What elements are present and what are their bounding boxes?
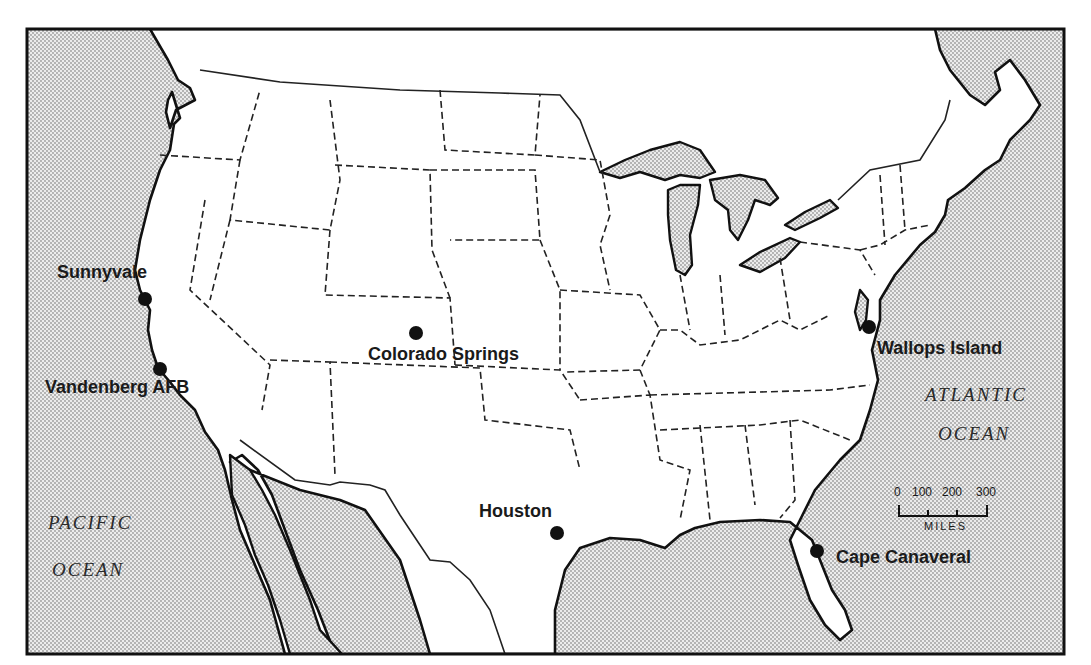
site-marker-icon (862, 320, 876, 334)
svg-text:0: 0 (894, 485, 901, 499)
svg-text:300: 300 (976, 485, 996, 499)
svg-text:Wallops Island: Wallops Island (877, 338, 1002, 358)
svg-text:Houston: Houston (479, 501, 552, 521)
svg-text:OCEAN: OCEAN (52, 559, 124, 580)
svg-text:Sunnyvale: Sunnyvale (57, 262, 147, 282)
svg-text:MILES: MILES (924, 520, 967, 532)
svg-text:OCEAN: OCEAN (938, 423, 1010, 444)
site-marker-icon (138, 292, 152, 306)
site-marker-icon (409, 326, 423, 340)
us-site-map: PACIFIC OCEAN ATLANTIC OCEAN Sunnyvale V… (0, 0, 1091, 665)
site-marker-icon (153, 362, 167, 376)
site-marker-icon (810, 544, 824, 558)
site-marker-icon (550, 526, 564, 540)
svg-text:100: 100 (912, 485, 932, 499)
svg-text:200: 200 (942, 485, 962, 499)
svg-text:PACIFIC: PACIFIC (47, 512, 132, 533)
svg-text:Cape Canaveral: Cape Canaveral (836, 547, 971, 567)
svg-text:Colorado Springs: Colorado Springs (368, 344, 519, 364)
svg-text:Vandenberg AFB: Vandenberg AFB (45, 377, 189, 397)
svg-text:ATLANTIC: ATLANTIC (923, 384, 1027, 405)
